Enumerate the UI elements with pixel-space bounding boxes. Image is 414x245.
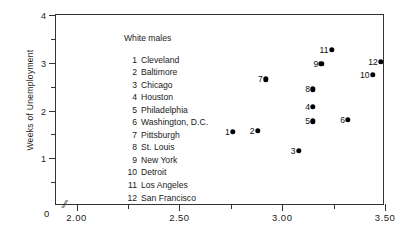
x-axis-zero-label: 0 (44, 208, 49, 219)
scatter-chart-figure: Weeks of Unemployment 0 // 1234 2.002.50… (0, 0, 414, 245)
y-tick-label-2: 2 (41, 107, 46, 117)
legend-item-number: 6 (124, 116, 137, 129)
x-tick-label-3.00: 3.00 (272, 212, 293, 223)
legend-item-label: Cleveland (141, 55, 179, 65)
data-point-label-12: 12 (368, 57, 381, 67)
legend-item-6: 6Washington, D.C. (124, 116, 208, 129)
data-point-label-10: 10 (360, 70, 373, 80)
data-point-label-7: 7 (258, 74, 266, 84)
legend-item-number: 7 (124, 129, 137, 142)
legend-item-number: 8 (124, 141, 137, 154)
y-tick-minor (51, 182, 56, 183)
x-tick-2.50 (179, 204, 180, 211)
legend-item-label: Chicago (141, 80, 173, 90)
legend-item-number: 2 (124, 66, 137, 79)
legend-item-label: San Francisco (141, 193, 196, 203)
legend-item-7: 7Pittsburgh (124, 129, 208, 142)
legend-item-label: Houston (141, 92, 173, 102)
legend-item-label: Baltimore (141, 67, 177, 77)
y-tick-label-4: 4 (41, 11, 46, 21)
legend-item-label: Pittsburgh (141, 130, 180, 140)
x-tick-minor (334, 204, 335, 209)
legend-item-2: 2Baltimore (124, 66, 208, 79)
data-point-label-6: 6 (340, 115, 348, 125)
legend-item-12: 12San Francisco (124, 192, 208, 205)
legend-item-1: 1Cleveland (124, 54, 208, 67)
legend-item-label: Washington, D.C. (141, 117, 208, 127)
legend-item-number: 3 (124, 79, 137, 92)
x-tick-label-2.50: 2.50 (169, 212, 190, 223)
legend-rows: 1Cleveland2Baltimore3Chicago4Houston5Phi… (124, 54, 208, 205)
y-tick-1: 1 (49, 158, 56, 159)
legend-item-number: 4 (124, 91, 137, 104)
x-tick-minor (128, 204, 129, 209)
legend-item-number: 9 (124, 154, 137, 167)
legend-item-8: 8St. Louis (124, 141, 208, 154)
legend-item-number: 5 (124, 104, 137, 117)
legend-item-9: 9New York (124, 154, 208, 167)
legend: White males 1Cleveland2Baltimore3Chicago… (124, 32, 208, 204)
y-tick-label-1: 1 (41, 154, 46, 164)
legend-item-3: 3Chicago (124, 79, 208, 92)
data-point-label-2: 2 (250, 126, 258, 136)
legend-item-5: 5Philadelphia (124, 104, 208, 117)
x-tick-3.00 (282, 204, 283, 211)
y-tick-minor (51, 87, 56, 88)
data-point-label-11: 11 (320, 45, 332, 55)
x-tick-2.00 (77, 204, 78, 211)
legend-item-label: Los Angeles (141, 180, 188, 190)
y-tick-3: 3 (49, 63, 56, 64)
data-point-label-3: 3 (291, 146, 299, 156)
legend-item-10: 10Detroit (124, 166, 208, 179)
y-tick-4: 4 (49, 15, 56, 16)
legend-item-number: 11 (124, 179, 137, 192)
legend-item-label: Detroit (141, 167, 166, 177)
legend-item-label: New York (141, 155, 177, 165)
legend-item-label: Philadelphia (141, 105, 188, 115)
legend-title: White males (124, 32, 208, 45)
x-tick-label-3.50: 3.50 (375, 212, 396, 223)
data-point-label-5: 5 (305, 116, 313, 126)
legend-item-number: 1 (124, 54, 137, 67)
x-tick-minor (231, 204, 232, 209)
legend-item-4: 4Houston (124, 91, 208, 104)
x-tick-3.50 (385, 204, 386, 211)
y-tick-label-3: 3 (41, 59, 46, 69)
legend-item-number: 10 (124, 166, 137, 179)
legend-item-11: 11Los Angeles (124, 179, 208, 192)
legend-item-label: St. Louis (141, 142, 174, 152)
data-point-label-9: 9 (313, 59, 321, 69)
x-tick-label-2.00: 2.00 (66, 212, 87, 223)
data-point-label-1: 1 (225, 127, 233, 137)
y-tick-minor (51, 39, 56, 40)
legend-item-number: 12 (124, 192, 137, 205)
data-point-label-8: 8 (305, 84, 313, 94)
plot-area: 1234 2.002.503.003.50 White males 1Cleve… (55, 14, 384, 205)
y-axis-label: Weeks of Unemployment (25, 20, 35, 180)
data-point-label-4: 4 (305, 102, 313, 112)
y-tick-2: 2 (49, 111, 56, 112)
y-tick-minor (51, 134, 56, 135)
